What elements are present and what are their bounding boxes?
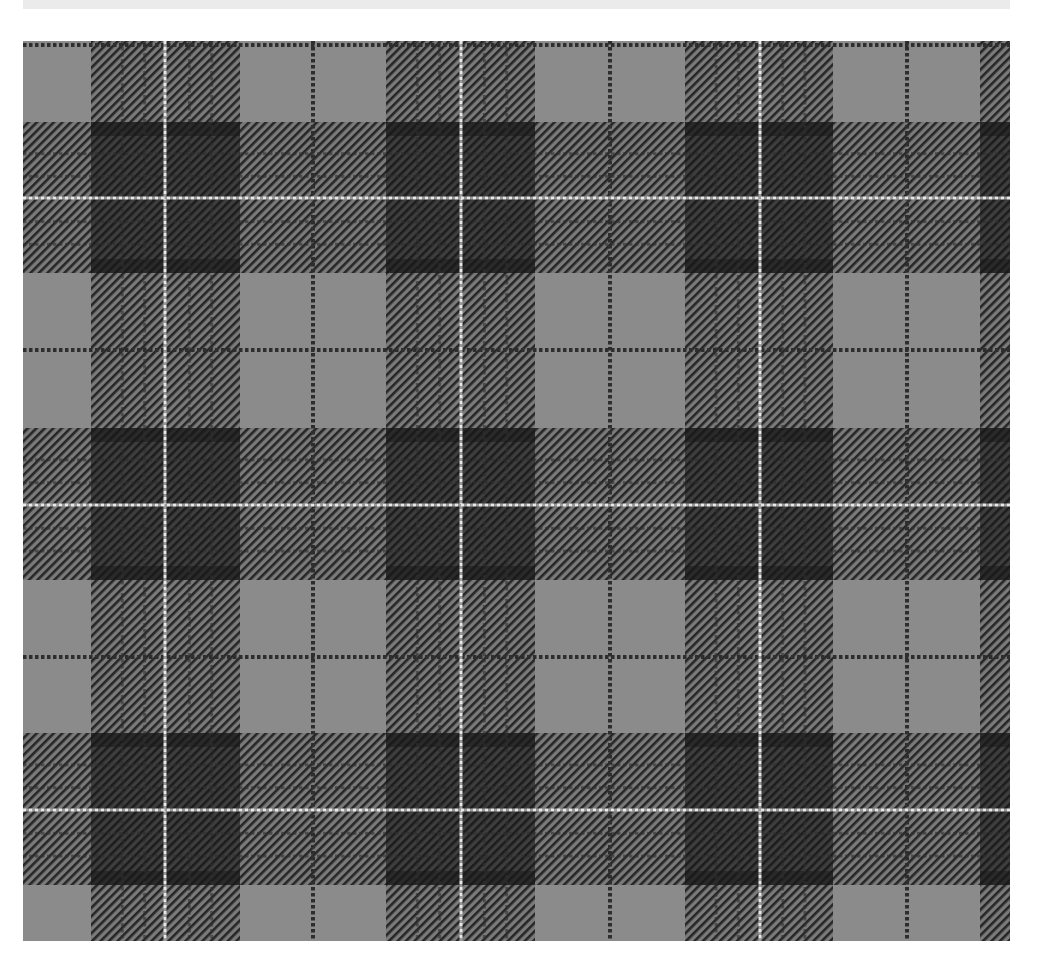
top-strip [23, 0, 1010, 9]
tartan-fabric [23, 41, 1010, 941]
tartan-pattern [23, 41, 1010, 941]
